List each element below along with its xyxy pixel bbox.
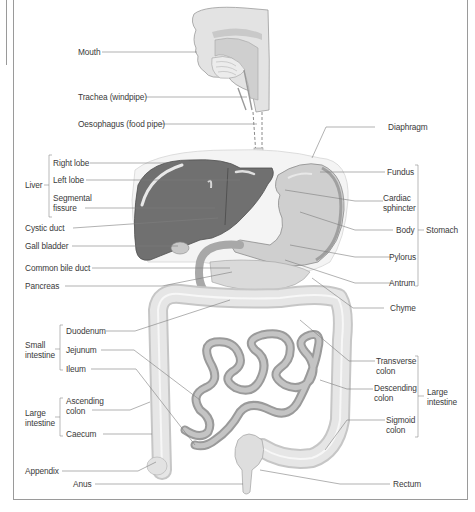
label-gall-bladder: Gall bladder (25, 241, 69, 251)
label-ileum: Ileum (66, 364, 86, 374)
gall-bladder-shape (171, 242, 189, 254)
label-ascending-colon: Ascending colon (66, 396, 104, 416)
label-large-intestine-group-right: Large intestine (427, 387, 457, 407)
label-caecum: Caecum (66, 429, 96, 439)
label-antrum: Antrum (389, 278, 415, 288)
label-right-lobe: Right lobe (53, 158, 89, 168)
label-chyme: Chyme (390, 303, 416, 313)
label-large-intestine-group-left: Large intestine (25, 408, 55, 428)
label-rectum: Rectum (393, 479, 421, 489)
head-illustration (192, 7, 269, 112)
label-cardiac-sphincter: Cardiac sphincter (383, 193, 416, 213)
label-anus: Anus (73, 479, 92, 489)
label-duodenum: Duodenum (66, 326, 106, 336)
small-intestine-illustration (185, 334, 319, 446)
label-pylorus: Pylorus (389, 252, 416, 262)
caecum-shape (147, 457, 167, 475)
label-mouth: Mouth (78, 47, 101, 57)
label-small-intestine-group: Small intestine (25, 340, 55, 360)
label-sigmoid-colon: Sigmoid colon (386, 415, 415, 435)
label-oesophagus: Oesophagus (food pipe) (78, 119, 165, 129)
label-diaphragm: Diaphragm (388, 122, 428, 132)
label-descending-colon: Descending colon (374, 383, 417, 403)
label-segmental-fissure: Segmental fissure (53, 193, 92, 213)
label-left-lobe: Left lobe (53, 175, 84, 185)
label-liver-group: Liver (25, 180, 42, 190)
label-cystic-duct: Cystic duct (25, 223, 64, 233)
label-pancreas: Pancreas (25, 281, 59, 291)
label-jejunum: Jejunum (66, 345, 97, 355)
label-body: Body (396, 225, 415, 235)
label-fundus: Fundus (387, 167, 414, 177)
label-common-bile-duct: Common bile duct (25, 263, 90, 273)
label-trachea: Trachea (windpipe) (78, 92, 147, 102)
label-transverse-colon: Transverse colon (376, 356, 416, 376)
rectum-shape (235, 434, 264, 494)
label-appendix: Appendix (25, 466, 59, 476)
label-stomach-group: Stomach (426, 225, 458, 235)
